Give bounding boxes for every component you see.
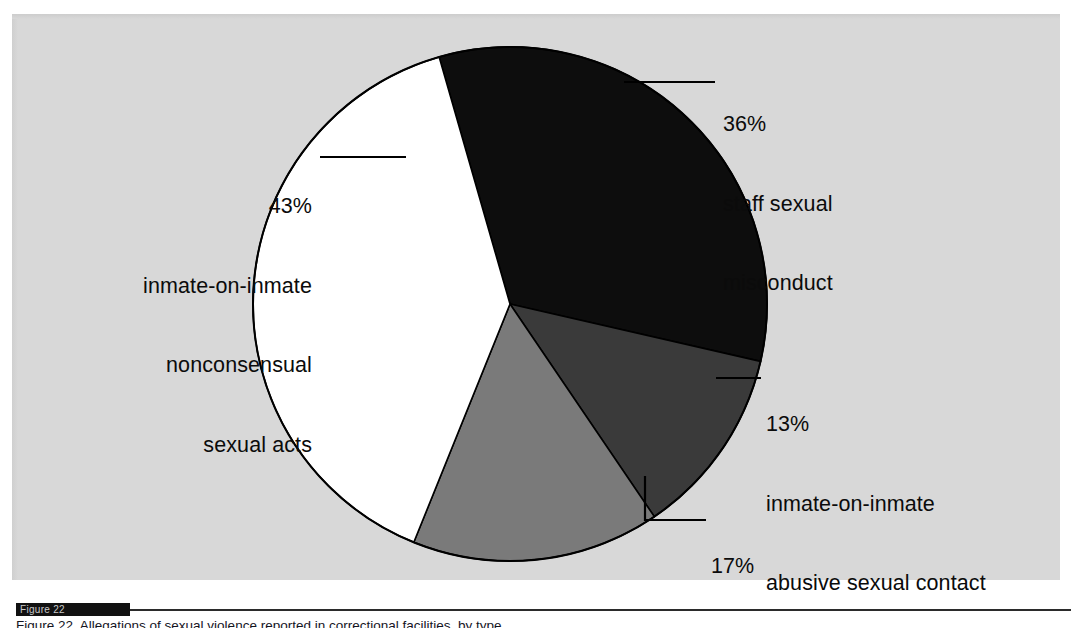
pie-label-percent: 13% [766,411,986,438]
pie-label-inmate-nonconsensual-sexual-acts: 43% inmate-on-inmate nonconsensual sexua… [28,140,312,511]
pie-label-percent: 43% [28,193,312,220]
pie-label-text-line-1: staff sexual [723,191,833,218]
pie-label-text-line-1: inmate-on-inmate [28,273,312,300]
figure-caption-tab: Figure 22 [16,603,130,616]
pie-label-staff-sexual-misconduct: 36% staff sexual misconduct [723,58,833,350]
figure-caption-tab-label: Figure 22 [20,603,65,616]
pie-label-text-line-2: nonconsensual [28,352,312,379]
figure-caption-rule [130,609,1071,611]
figure-root: 36% staff sexual misconduct 43% inmate-o… [0,0,1071,628]
figure-caption-text: Figure 22. Allegations of sexual violenc… [16,617,1056,628]
pie-label-percent: 17% [711,553,824,580]
pie-label-text-line-3: sexual acts [28,432,312,459]
pie-label-percent: 36% [723,111,833,138]
pie-label-text-line-2: misconduct [723,270,833,297]
